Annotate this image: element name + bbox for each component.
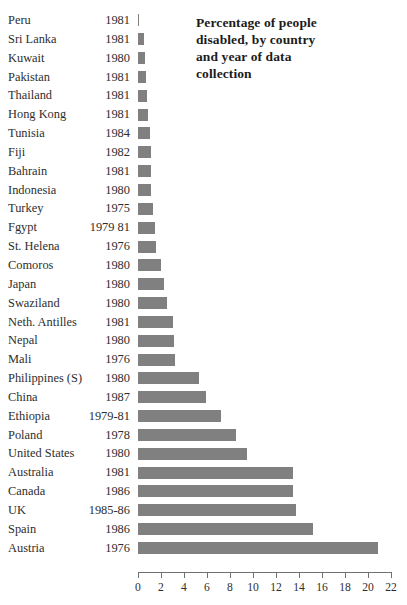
bar (138, 184, 151, 196)
year-label: 1978 (60, 426, 130, 445)
x-axis-tick (253, 572, 254, 578)
year-label: 1981 (60, 463, 130, 482)
table-row: Canada1986 (0, 482, 407, 501)
year-label: 1984 (60, 124, 130, 143)
bar (138, 33, 144, 45)
bar-track (138, 410, 221, 422)
bar (138, 146, 151, 158)
x-axis-tick-label: 16 (310, 581, 334, 594)
year-label: 1981 (60, 105, 130, 124)
x-axis-tick-label: 2 (149, 581, 173, 594)
table-row: Bahrain1981 (0, 162, 407, 181)
bar (138, 14, 139, 26)
table-row: Fgypt1979 81 (0, 218, 407, 237)
bar (138, 297, 167, 309)
bar (138, 410, 221, 422)
bar-track (138, 504, 296, 516)
x-axis-tick-label: 14 (287, 581, 311, 594)
bar (138, 448, 247, 460)
x-axis-tick-label: 20 (356, 581, 380, 594)
country-label: Peru (8, 11, 31, 30)
year-label: 1981 (60, 313, 130, 332)
x-axis-tick (299, 572, 300, 578)
table-row: Fiji1982 (0, 143, 407, 162)
x-axis-tick (276, 572, 277, 578)
country-label: Mali (8, 350, 31, 369)
x-axis-tick-label: 22 (379, 581, 403, 594)
country-label: Hong Kong (8, 105, 66, 124)
chart-root: Percentage of people disabled, by countr… (0, 0, 407, 605)
year-label: 1987 (60, 388, 130, 407)
bar (138, 485, 293, 497)
country-label: Bahrain (8, 162, 47, 181)
bar (138, 90, 147, 102)
bar (138, 127, 150, 139)
country-label: Australia (8, 463, 53, 482)
country-label: China (8, 388, 38, 407)
table-row: Australia1981 (0, 463, 407, 482)
x-axis-tick (391, 572, 392, 578)
year-label: 1976 (60, 237, 130, 256)
x-axis-tick (345, 572, 346, 578)
x-axis-tick-label: 10 (241, 581, 265, 594)
bar-track (138, 71, 146, 83)
bar-track (138, 146, 151, 158)
bar-track (138, 316, 173, 328)
bar (138, 259, 161, 271)
country-label: Japan (8, 275, 36, 294)
country-label: Pakistan (8, 68, 50, 87)
country-label: Fiji (8, 143, 25, 162)
bar-track (138, 222, 155, 234)
bar-track (138, 372, 199, 384)
table-row: Thailand1981 (0, 86, 407, 105)
year-label: 1980 (60, 294, 130, 313)
table-row: St. Helena1976 (0, 237, 407, 256)
table-row: Spain1986 (0, 520, 407, 539)
x-axis-tick-label: 6 (195, 581, 219, 594)
country-label: Turkey (8, 199, 43, 218)
table-row: Indonesia1980 (0, 181, 407, 200)
bar (138, 335, 174, 347)
bar (138, 52, 145, 64)
bar-track (138, 297, 167, 309)
bar-track (138, 259, 161, 271)
bar-track (138, 467, 293, 479)
year-label: 1980 (60, 369, 130, 388)
bar-track (138, 354, 175, 366)
year-label: 1976 (60, 539, 130, 558)
country-label: Tunisia (8, 124, 45, 143)
year-label: 1986 (60, 482, 130, 501)
x-axis-tick (161, 572, 162, 578)
country-label: Indonesia (8, 181, 56, 200)
year-label: 1981 (60, 68, 130, 87)
bar (138, 241, 156, 253)
table-row: Peru1981 (0, 11, 407, 30)
country-label: UK (8, 501, 26, 520)
bar (138, 222, 155, 234)
year-label: 1981 (60, 86, 130, 105)
country-label: St. Helena (8, 237, 60, 256)
bar (138, 203, 153, 215)
bar (138, 523, 313, 535)
table-row: Ethiopia1979-81 (0, 407, 407, 426)
year-label: 1980 (60, 444, 130, 463)
country-label: Ethiopia (8, 407, 50, 426)
table-row: Japan1980 (0, 275, 407, 294)
bar-track (138, 14, 139, 26)
bar (138, 391, 206, 403)
bar-track (138, 184, 151, 196)
table-row: China1987 (0, 388, 407, 407)
x-axis-line (138, 572, 391, 573)
bar (138, 429, 236, 441)
year-label: 1980 (60, 331, 130, 350)
bar (138, 504, 296, 516)
year-label: 1975 (60, 199, 130, 218)
table-row: Poland1978 (0, 426, 407, 445)
year-label: 1980 (60, 256, 130, 275)
x-axis-tick-label: 12 (264, 581, 288, 594)
bar (138, 354, 175, 366)
country-label: Fgypt (8, 218, 37, 237)
country-label: Kuwait (8, 49, 44, 68)
bar (138, 316, 173, 328)
x-axis-tick (184, 572, 185, 578)
